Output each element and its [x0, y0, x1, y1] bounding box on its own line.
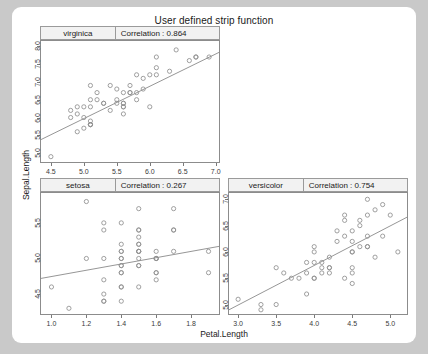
x-tick [390, 315, 391, 318]
data-point [172, 249, 176, 253]
y-tick-label: 6.0 [222, 247, 229, 257]
data-point [396, 250, 400, 254]
data-point [154, 271, 158, 275]
data-point [373, 255, 377, 259]
data-point [119, 221, 123, 225]
data-point [137, 249, 141, 253]
data-point [102, 256, 106, 260]
data-point [327, 266, 331, 270]
data-point [84, 199, 88, 203]
data-points-virginica [41, 41, 219, 162]
data-point [381, 202, 385, 206]
y-tick-label: 6.5 [34, 95, 41, 105]
x-tick [156, 315, 157, 318]
data-point [69, 108, 73, 112]
data-point [88, 98, 92, 102]
data-point [312, 250, 316, 254]
data-point [137, 228, 141, 232]
plot-card: User defined strip function Sepal.Length… [12, 7, 416, 343]
x-tick [191, 315, 192, 318]
data-point [365, 197, 369, 201]
x-tick [150, 163, 151, 166]
data-point [320, 271, 324, 275]
y-tick-label: 5.0 [34, 254, 41, 264]
strip-header-virginica: virginicaCorrelation : 0.864 [40, 26, 220, 40]
data-point [304, 260, 308, 264]
data-point [119, 271, 123, 275]
data-point [172, 207, 176, 211]
data-point [259, 302, 263, 306]
x-tick [238, 315, 239, 318]
data-point [119, 249, 123, 253]
data-point [206, 271, 210, 275]
data-point [119, 264, 123, 268]
data-point [137, 235, 141, 239]
x-tick-label: 1.2 [81, 320, 91, 327]
y-axis-title: Sepal.Length [21, 150, 31, 200]
data-point [88, 105, 92, 109]
plot-area-virginica [40, 40, 220, 163]
data-point [134, 98, 138, 102]
data-point [335, 229, 339, 233]
x-tick [216, 163, 217, 166]
plot-screenshot: User defined strip function Sepal.Length… [0, 0, 428, 354]
data-point [67, 306, 71, 310]
y-tick-label: 5.0 [222, 300, 229, 310]
panel-virginica: virginicaCorrelation : 0.8644.55.05.56.0… [40, 26, 220, 163]
data-point [108, 83, 112, 87]
data-point [343, 213, 347, 217]
data-point [82, 115, 86, 119]
strip-level-label: versicolor [229, 179, 304, 191]
data-point [75, 112, 79, 116]
data-point [289, 276, 293, 280]
x-tick [314, 315, 315, 318]
data-point [304, 271, 308, 275]
data-point [350, 229, 354, 233]
data-point [154, 256, 158, 260]
x-tick [86, 315, 87, 318]
x-tick-label: 7.0 [211, 168, 221, 175]
data-point [82, 126, 86, 130]
data-point [69, 115, 73, 119]
data-point [282, 271, 286, 275]
data-point [134, 91, 138, 95]
data-point [137, 285, 141, 289]
plot-area-versicolor [228, 192, 408, 315]
data-point [102, 299, 106, 303]
y-tick-label: 7.0 [222, 194, 229, 204]
data-point [350, 250, 354, 254]
x-tick-label: 5.0 [385, 320, 395, 327]
x-tick-label: 5.0 [79, 168, 89, 175]
data-point [141, 87, 145, 91]
strip-correlation-label: Correlation : 0.754 [304, 179, 407, 191]
data-point [137, 242, 141, 246]
data-point [95, 98, 99, 102]
data-point [365, 234, 369, 238]
data-point [320, 260, 324, 264]
page-title: User defined strip function [12, 15, 416, 26]
data-point [95, 91, 99, 95]
data-point [327, 271, 331, 275]
data-point [134, 73, 138, 77]
x-tick-label: 6.0 [145, 168, 155, 175]
x-tick [276, 315, 277, 318]
data-point [49, 285, 53, 289]
panel-versicolor: versicolorCorrelation : 0.7543.03.54.04.… [228, 178, 408, 315]
data-point [167, 69, 171, 73]
data-point [75, 105, 79, 109]
data-point [102, 101, 106, 105]
x-tick-label: 1.8 [186, 320, 196, 327]
data-point [108, 108, 112, 112]
x-tick-label: 3.5 [271, 320, 281, 327]
x-tick-label: 6.5 [178, 168, 188, 175]
data-point [119, 242, 123, 246]
data-point [259, 308, 263, 312]
x-tick-label: 4.0 [309, 320, 319, 327]
data-points-setosa [41, 193, 219, 314]
data-point [358, 218, 362, 222]
data-point [49, 155, 53, 159]
data-point [350, 239, 354, 243]
x-tick-label: 4.5 [347, 320, 357, 327]
x-tick-label: 1.0 [47, 320, 57, 327]
data-point [320, 266, 324, 270]
